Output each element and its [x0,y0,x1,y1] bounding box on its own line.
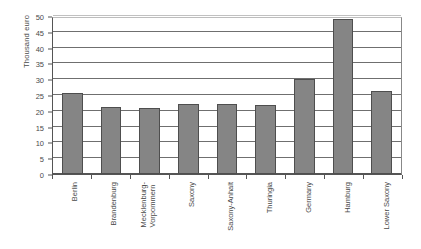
bar[interactable] [62,93,82,174]
y-tick-label: 35 [36,60,44,69]
bar-slot [246,18,285,174]
bar-slot [169,18,208,174]
bar-slot [130,18,169,174]
x-axis-category-label-line: Vorpommern [149,182,158,227]
bar[interactable] [371,91,391,174]
y-axis-ticks: 05101520253035404550 [0,0,52,176]
bars-layer [53,18,401,174]
x-tick-mark [363,175,364,179]
bar-slot [324,18,363,174]
x-axis-category-label-line: Thuringia [265,182,274,213]
x-axis-category-label: Berlin [71,182,80,201]
plot-area [52,17,402,175]
x-tick-mark [285,175,286,179]
x-label-slot: Saxony-Anhalt [208,180,247,249]
x-tick-mark [208,175,209,179]
bar[interactable] [294,79,314,174]
bar[interactable] [139,108,159,174]
x-axis-category-label-line: Saxony [187,182,196,207]
bar-slot [208,18,247,174]
bar-chart: Thousand euro 05101520253035404550 Berli… [0,0,421,249]
bar-slot [285,18,324,174]
x-axis-category-label-line: Hamburg [343,182,352,213]
x-label-slot: Germany [285,180,324,249]
y-tick-label: 0 [40,171,44,180]
gridline-50 [53,15,401,16]
x-tick-mark [130,175,131,179]
y-tick-label: 40 [36,44,44,53]
bar-slot [362,18,401,174]
x-label-slot: Lower Saxony [363,180,402,249]
x-axis-category-label-line: Berlin [70,182,79,201]
y-tick-label: 5 [40,155,44,164]
x-tick-mark [52,175,53,179]
bar[interactable] [217,104,237,174]
x-axis-category-label: Saxony-Anhalt [227,182,236,231]
x-axis-category-label: Hamburg [344,182,353,213]
bar[interactable] [255,105,275,174]
x-label-slot: Saxony [169,180,208,249]
x-axis-category-label: Mecklenburg-Vorpommern [140,182,157,227]
x-axis-labels: BerlinBrandenburgMecklenburg-VorpommernS… [52,180,402,249]
x-label-slot: Thuringia [246,180,285,249]
bar[interactable] [101,107,121,174]
x-axis-category-label-line: Brandenburg [109,182,118,225]
x-tick-mark [324,175,325,179]
x-axis-category-label-line: Germany [304,182,313,213]
x-axis-category-label: Lower Saxony [383,182,392,230]
bar[interactable] [333,19,353,174]
x-tick-mark [402,175,403,179]
x-tick-mark [246,175,247,179]
x-label-slot: Mecklenburg-Vorpommern [130,180,169,249]
y-tick-label: 30 [36,76,44,85]
y-tick-label: 20 [36,107,44,116]
x-axis-category-label: Saxony [188,182,197,207]
x-label-slot: Berlin [52,180,91,249]
bar-slot [53,18,92,174]
x-axis-category-label-line: Lower Saxony [382,182,391,230]
y-tick-label: 10 [36,139,44,148]
bar[interactable] [178,104,198,174]
x-label-slot: Hamburg [324,180,363,249]
x-axis-category-label: Brandenburg [110,182,119,225]
x-tick-mark [169,175,170,179]
y-tick-label: 15 [36,123,44,132]
y-tick-label: 50 [36,13,44,22]
x-label-slot: Brandenburg [91,180,130,249]
x-tick-mark [91,175,92,179]
x-axis-category-label-line: Mecklenburg- [139,182,148,227]
bar-slot [92,18,131,174]
y-tick-label: 25 [36,92,44,101]
y-tick-label: 45 [36,28,44,37]
x-axis-category-label-line: Saxony-Anhalt [226,182,235,231]
x-axis-category-label: Thuringia [266,182,275,213]
x-axis-category-label: Germany [305,182,314,213]
